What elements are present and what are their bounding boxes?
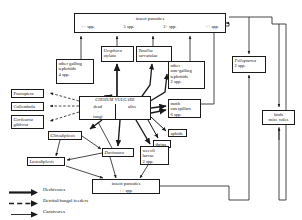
label: Dasineura	[105, 150, 132, 155]
label: Psocoptera	[14, 91, 42, 96]
species-count: 2 spp.	[235, 63, 264, 68]
node-terellia-serratulae[interactable]: Terellia serratulae	[136, 46, 172, 62]
food-web-diagram: insect parasites ++ spp. 5 spp. 2+ spp. …	[0, 0, 302, 220]
node-psocoptera[interactable]: Psocoptera	[11, 89, 44, 98]
legend-row-carnivores: Carnivores	[8, 206, 128, 217]
node-urophora-stylata[interactable]: Urophora stylata	[101, 46, 134, 62]
label-line-3: 6 spp.	[171, 112, 199, 117]
node-lestodiplosis[interactable]: Lestodiplosis	[27, 157, 65, 166]
plant-scientific-name: CIRSIUM VULGARE	[81, 98, 149, 103]
node-moth-caterpillars[interactable]: moth caterpillars 6 spp.	[168, 99, 201, 118]
node-weevil-larvae[interactable]: weevil larvae 2 spp.	[140, 146, 169, 165]
plant-fungi-label: fungi	[81, 114, 115, 119]
node-top-insect-parasites[interactable]: insect parasites ++ spp. 5 spp. 2+ spp. …	[74, 13, 226, 33]
label-line-4: 2 spp.	[171, 79, 203, 84]
label: Collembola	[14, 104, 42, 109]
legend-label-detrital: Detrital/fungal feeders	[43, 198, 88, 203]
legend: Herbivores Detrital/fungal feeders Carni…	[8, 184, 128, 217]
species-label: stylata	[104, 53, 132, 58]
node-host-plant[interactable]: CIRSIUM VULGARE dead + fungi alive	[79, 96, 151, 120]
carnivore-arrow-icon	[8, 206, 40, 217]
label-line-3: 4 spp.	[59, 72, 92, 77]
label: Clinodiplosis	[51, 133, 80, 138]
node-other-galling-tephritids[interactable]: other galling tephritids 4 spp.	[56, 59, 94, 84]
label: Lestodiplosis	[30, 159, 63, 164]
count-0: ++ spp.	[81, 24, 95, 29]
species-label: serratulae	[139, 53, 170, 58]
legend-label-carnivores: Carnivores	[43, 209, 65, 214]
node-collembola[interactable]: Collembola	[11, 102, 44, 111]
node-corticaria-gibbosa[interactable]: Corticaria gibbosa	[11, 115, 44, 129]
count-1: 5 spp.	[124, 24, 135, 29]
top-parasites-title: insect parasites	[77, 16, 223, 22]
node-other-non-galling-tephritids[interactable]: other non-galling tephritids 2 spp.	[168, 61, 205, 89]
top-parasites-counts: ++ spp. 5 spp. 2+ spp. ++ spp.	[77, 24, 223, 29]
legend-label-herbivores: Herbivores	[43, 187, 65, 192]
detrital-arrow-icon	[8, 195, 40, 206]
count-2: 2+ spp.	[163, 24, 176, 29]
label: aphids	[171, 131, 185, 136]
node-clinodiplosis[interactable]: Clinodiplosis	[48, 131, 82, 140]
node-dasineura[interactable]: Dasineura	[102, 148, 134, 157]
node-psilopterna[interactable]: Psilopterna 2 spp.	[232, 56, 266, 73]
plant-alive-label: alive	[116, 104, 150, 109]
label-line-2: mice voles	[265, 117, 293, 122]
legend-row-herbivores: Herbivores	[8, 184, 128, 195]
legend-row-detrital: Detrital/fungal feeders	[8, 195, 128, 206]
node-aphids[interactable]: aphids	[168, 129, 187, 137]
species-label: gibbosa	[14, 122, 42, 127]
plant-alive-half: alive	[116, 104, 150, 120]
label-line-3: 2 spp.	[143, 159, 167, 164]
herbivore-arrow-icon	[8, 184, 40, 195]
plant-state-split: dead + fungi alive	[81, 104, 149, 120]
node-birds-mice-voles[interactable]: birds mice voles	[262, 110, 295, 125]
count-3: ++ spp.	[205, 24, 219, 29]
plant-dead-half: dead + fungi	[81, 104, 116, 120]
